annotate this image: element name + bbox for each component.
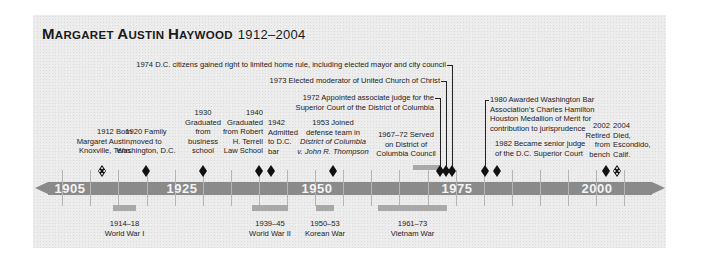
event-label: 2004Died,Escondido,Calif. — [613, 121, 651, 159]
leader-hook — [441, 81, 447, 82]
title-years: 1912–2004 — [238, 27, 306, 42]
event-label-line: Houston Medallion of Merit for — [490, 114, 591, 123]
event-label-line: 1942 — [268, 118, 285, 127]
war-label: 1950–53Korean War — [305, 219, 345, 239]
event-label: 1953 Joineddefense team inDistrict of Co… — [297, 118, 369, 156]
event-label-line: defense team in — [306, 128, 360, 137]
event-label: 1930Graduatedfrombusinessschool — [185, 108, 221, 156]
event-label: 2002Retiredfrombench — [586, 121, 610, 159]
axis-tick — [624, 170, 625, 206]
event-label-line: business — [188, 137, 218, 146]
page-title: MARGARET AUSTIN HAYWOOD1912–2004 — [42, 25, 306, 43]
axis-tick — [118, 170, 119, 206]
leader-hook — [447, 65, 453, 66]
event-label-line: Retired — [586, 131, 610, 140]
event-label-line: Died, — [613, 131, 631, 140]
council-label-line: 1967–72 Served — [378, 130, 434, 139]
event-label-line: 1980 Awarded Washington Bar — [490, 95, 594, 104]
event-label: 1974 D.C. citizens gained right to limit… — [136, 60, 446, 70]
event-diamond-icon — [329, 163, 337, 175]
leader-line — [452, 65, 453, 166]
event-label-line: contribution to jurisprudence — [490, 124, 585, 133]
war-label: 1939–45World War II — [249, 219, 291, 239]
war-years: 1950–53 — [310, 219, 340, 228]
event-diamond-icon — [493, 163, 501, 175]
title-initial: A — [117, 25, 128, 42]
event-label-line: 1953 Joined — [312, 118, 353, 127]
axis-tick — [540, 170, 541, 206]
event-diamond-icon — [142, 163, 150, 175]
title-rest: ARGARET — [55, 29, 117, 41]
axis-tick — [399, 170, 400, 206]
event-label-line: to D.C. — [268, 137, 292, 146]
event-label-line: 1972 Appointed associate judge for the — [303, 93, 434, 102]
axis-tick — [231, 170, 232, 206]
event-label: 1920 Familymoved toWashington, D.C. — [116, 127, 175, 156]
war-label: 1914–18World War I — [105, 219, 145, 239]
axis-tick — [371, 170, 372, 206]
title-initial: H — [168, 25, 179, 42]
event-label: 1973 Elected moderator of United Church … — [269, 76, 440, 86]
axis-year-label: 1925 — [167, 181, 198, 196]
event-label: 1982 Became senior judgeof the D.C. Supe… — [495, 139, 585, 158]
event-label-line: Superior Court of the District of Columb… — [296, 103, 434, 112]
axis-year-label: 1905 — [55, 181, 86, 196]
title-rest: USTIN — [128, 29, 168, 41]
event-label-line: 1940 — [246, 108, 263, 117]
event-label-line: H. Terrell — [233, 137, 263, 146]
event-label-line: 2004 — [613, 121, 630, 130]
war-period-bar — [316, 205, 334, 211]
leader-line — [446, 81, 447, 166]
leader-line — [440, 98, 441, 166]
event-label-line: bar — [268, 147, 279, 156]
event-label-line: Washington, D.C. — [116, 146, 175, 155]
war-period-bar — [113, 205, 136, 211]
event-label-line: Calif. — [613, 150, 630, 159]
event-label: 1980 Awarded Washington BarAssociation’s… — [490, 95, 595, 133]
war-period-bar — [252, 205, 288, 211]
event-label-line: 1974 D.C. citizens gained right to limit… — [136, 60, 446, 69]
war-name: Vietnam War — [391, 229, 434, 238]
event-label-line: 1930 — [195, 108, 212, 117]
event-label-line: Law School — [224, 146, 263, 155]
axis-arrow-left — [35, 182, 48, 194]
war-years: 1961–73 — [398, 219, 428, 228]
event-label-line: 1982 Became senior judge — [495, 139, 585, 148]
event-label-line: school — [192, 146, 214, 155]
event-label-line: District of Columbia — [300, 137, 366, 146]
event-label-line: v. John R. Thompson — [297, 147, 369, 156]
event-label-line: from Robert — [223, 127, 263, 136]
axis-tick — [568, 170, 569, 206]
event-label-line: of the D.C. Superior Court — [495, 149, 583, 158]
event-diamond-icon — [255, 163, 263, 175]
council-label: 1967–72 Servedon District ofColumbia Cou… — [376, 130, 436, 159]
event-diamond-icon — [199, 163, 207, 175]
axis-tick — [512, 170, 513, 206]
war-label: 1961–73Vietnam War — [391, 219, 434, 239]
event-label-line: 1920 Family — [125, 127, 166, 136]
war-years: 1939–45 — [255, 219, 285, 228]
event-label-line: from — [195, 127, 210, 136]
event-label-line: Graduated — [227, 118, 263, 127]
event-label-line: Graduated — [185, 118, 221, 127]
council-label-line: on District of — [385, 140, 427, 149]
leader-hook — [485, 100, 489, 101]
leader-line — [485, 100, 486, 166]
axis-tick — [343, 170, 344, 206]
leader-hook — [435, 98, 441, 99]
war-years: 1914–18 — [110, 219, 140, 228]
timeline-axis — [48, 182, 652, 195]
birth-marker-icon — [98, 163, 106, 175]
axis-year-label: 1950 — [302, 181, 333, 196]
axis-tick — [287, 170, 288, 206]
axis-arrow-right — [652, 182, 665, 194]
war-period-bar — [378, 205, 447, 211]
war-name: Korean War — [305, 229, 345, 238]
event-label-line: bench — [589, 150, 610, 159]
event-label: 1940Graduatedfrom RobertH. TerrellLaw Sc… — [223, 108, 263, 156]
event-diamond-icon — [267, 163, 275, 175]
title-initial: M — [42, 25, 55, 42]
event-label-line: Admitted — [268, 128, 298, 137]
axis-year-label: 2000 — [582, 181, 613, 196]
axis-year-label: 1975 — [442, 181, 473, 196]
